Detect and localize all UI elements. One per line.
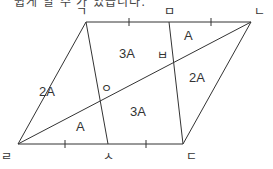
region-left: 2A [39,84,55,99]
region-top-middle: 3A [119,46,135,61]
diagonal [18,22,251,144]
region-bottom-left-small: A [76,119,85,134]
label-siot: ㅅ [103,150,114,164]
label-digeut: ㄷ [186,150,197,164]
label-nieun: ㄴ [254,5,265,19]
label-ieung: ㅇ [101,82,112,96]
region-bottom-middle: 3A [130,104,146,119]
region-right: 2A [189,70,205,85]
label-giyeok: ㄱ [76,5,87,19]
label-bieup: ㅂ [157,49,168,63]
segment-mieum-digeut [169,22,183,144]
region-top-right-small: A [184,28,193,43]
parallelogram-diagram: ㄱ ㅁ ㄴ ㄹ ㅅ ㄷ ㅇ ㅂ 3A A 2A 2A A 3A [0,0,273,169]
label-mieum: ㅁ [164,5,175,19]
label-rieul: ㄹ [1,150,12,164]
